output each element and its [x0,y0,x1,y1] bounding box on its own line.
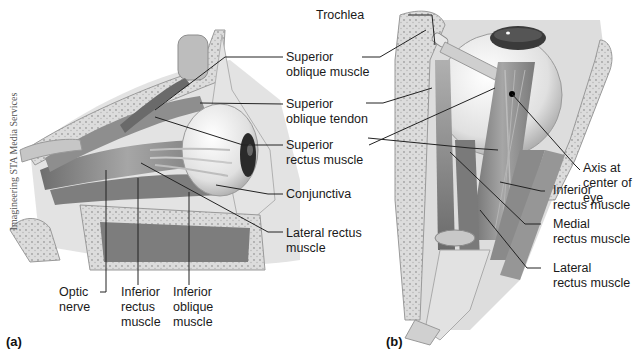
label-lateral-rectus-muscle-a: Lateral rectus muscle [286,226,362,256]
label-lateral-rectus-muscle-b: Lateral rectus muscle [553,261,630,291]
label-line: Inferior [553,183,630,198]
label-line: Lateral [553,261,630,276]
label-line: Medial [553,217,630,232]
label-line: oblique tendon [286,112,368,127]
label-line: rectus muscle [553,232,630,247]
label-optic-nerve: Optic nerve [59,285,90,315]
panel-label-a: (a) [6,334,22,349]
label-line: Conjunctiva [286,187,351,202]
label-line: muscle [286,241,362,256]
label-superior-oblique-muscle: Superior oblique muscle [286,50,369,80]
label-inferior-rectus-muscle-b: Inferior rectus muscle [553,183,630,213]
label-line: rectus muscle [553,276,630,291]
label-line: muscle [173,315,213,330]
label-line: rectus muscle [286,153,363,168]
label-line: rectus [121,300,161,315]
panel-label-b: (b) [386,334,403,349]
label-medial-rectus-muscle: Medial rectus muscle [553,217,630,247]
label-inferior-rectus-muscle-a: Inferior rectus muscle [121,285,161,330]
eye-muscles-figure: Imagineering STA Media Services Superior… [0,0,640,353]
panel-a-illustration [10,30,300,270]
panel-b-illustration [395,11,612,345]
label-line: Superior [286,138,363,153]
label-line: Optic [59,285,90,300]
label-conjunctiva: Conjunctiva [286,187,351,202]
label-line: Lateral rectus [286,226,362,241]
label-line: rectus muscle [553,198,630,213]
label-line: nerve [59,300,90,315]
label-trochlea: Trochlea [316,8,364,23]
label-line: Inferior [121,285,161,300]
label-superior-oblique-tendon: Superior oblique tendon [286,97,368,127]
label-superior-rectus-muscle: Superior rectus muscle [286,138,363,168]
label-line: Axis at [583,161,632,176]
label-line: oblique muscle [286,65,369,80]
label-inferior-oblique-muscle: Inferior oblique muscle [173,285,213,330]
label-line: muscle [121,315,161,330]
label-line: Superior [286,97,368,112]
label-line: Inferior [173,285,213,300]
label-line: Trochlea [316,8,364,23]
label-line: Superior [286,50,369,65]
image-credit: Imagineering STA Media Services [8,87,19,237]
label-line: oblique [173,300,213,315]
